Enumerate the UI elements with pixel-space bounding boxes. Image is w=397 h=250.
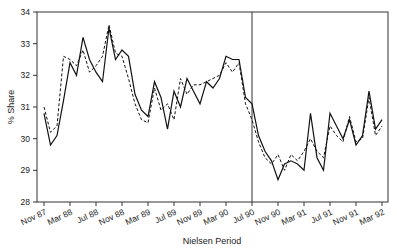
x-tick-label: Nov 89	[175, 207, 204, 228]
y-tick-label: 31	[21, 102, 31, 112]
x-tick-label: Mar 90	[202, 207, 230, 227]
series-fitted	[44, 25, 382, 171]
plot-frame	[37, 12, 388, 202]
y-axis-title: % Share	[6, 90, 16, 125]
x-tick-label: Nov 91	[331, 207, 360, 228]
y-tick-label: 32	[21, 70, 31, 80]
x-tick-label: Mar 88	[46, 207, 74, 227]
chart-canvas: 28293031323334Nov 87Mar 88Jul 88Nov 88Ma…	[0, 0, 397, 250]
axes: 28293031323334Nov 87Mar 88Jul 88Nov 88Ma…	[19, 7, 388, 227]
x-tick-label: Mar 89	[124, 207, 152, 227]
x-tick-label: Jul 90	[231, 207, 256, 226]
series-actual	[44, 28, 382, 180]
x-tick-label: Mar 92	[358, 207, 386, 227]
y-tick-label: 34	[21, 7, 31, 17]
x-tick-label: Nov 90	[253, 207, 282, 228]
y-tick-label: 33	[21, 39, 31, 49]
x-tick-label: Jul 89	[153, 207, 178, 226]
x-tick-label: Nov 87	[19, 207, 48, 228]
y-tick-label: 28	[21, 197, 31, 207]
y-tick-label: 29	[21, 165, 31, 175]
line-chart: 28293031323334Nov 87Mar 88Jul 88Nov 88Ma…	[0, 0, 397, 250]
x-axis-title: Nielsen Period	[183, 236, 242, 246]
x-tick-label: Jul 91	[309, 207, 334, 226]
y-tick-label: 30	[21, 134, 31, 144]
x-tick-label: Jul 88	[75, 207, 100, 226]
plot-area	[44, 12, 382, 202]
x-tick-label: Mar 91	[280, 207, 308, 227]
x-tick-label: Nov 88	[97, 207, 126, 228]
